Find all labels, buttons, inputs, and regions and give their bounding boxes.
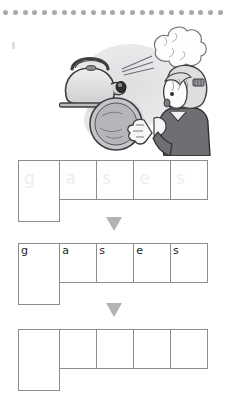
letter-printed: g (21, 244, 28, 257)
letter-box[interactable]: s (96, 243, 134, 283)
letter-printed: s (99, 244, 105, 257)
kettle-steam-child-illustration (48, 24, 226, 156)
rule-dot (159, 10, 164, 15)
rule-dot (179, 10, 184, 15)
letter-box[interactable]: g (18, 243, 60, 305)
letter-ghost: s (102, 170, 111, 187)
letter-box[interactable]: s (170, 160, 208, 200)
rule-dot (32, 10, 37, 15)
rule-dot (62, 10, 67, 15)
word-row-blank (18, 329, 208, 373)
rule-dot (81, 10, 86, 15)
rule-dot (42, 10, 47, 15)
letter-box[interactable] (170, 329, 208, 369)
rule-dot (169, 10, 174, 15)
rule-dot (52, 10, 57, 15)
letter-ghost: e (139, 170, 149, 187)
word-row-traced: g a s e s (18, 160, 208, 204)
letter-box-group (18, 329, 208, 369)
letter-printed: s (173, 244, 179, 257)
letter-ghost: a (65, 170, 75, 187)
rule-dot (110, 10, 115, 15)
decorative-dotted-rule (0, 7, 226, 17)
rule-dot (120, 10, 125, 15)
word-row-model: g a s e s (18, 243, 208, 287)
letter-box-group: g a s e s (18, 243, 208, 283)
letter-box[interactable] (96, 329, 134, 369)
stray-pencil-mark (12, 42, 15, 49)
rule-dot (71, 10, 76, 15)
down-arrow-icon (105, 302, 123, 318)
rule-dot (101, 10, 106, 15)
letter-printed: e (136, 244, 143, 257)
letter-box[interactable]: e (133, 160, 171, 200)
letter-box[interactable]: s (96, 160, 134, 200)
letter-printed: a (62, 244, 69, 257)
letter-box-group: g a s e s (18, 160, 208, 200)
letter-ghost: s (176, 170, 185, 187)
rule-dot (130, 10, 135, 15)
letter-box[interactable]: a (59, 160, 97, 200)
letter-box[interactable] (59, 329, 97, 369)
letter-box[interactable]: g (18, 160, 60, 222)
rule-dot (140, 10, 145, 15)
rule-dot (218, 10, 223, 15)
rule-dot (91, 10, 96, 15)
letter-box[interactable]: s (170, 243, 208, 283)
down-arrow-icon (105, 216, 123, 232)
rule-dot (189, 10, 194, 15)
rule-dot (3, 10, 8, 15)
letter-box[interactable] (18, 329, 60, 391)
rule-dot (13, 10, 18, 15)
letter-box[interactable] (133, 329, 171, 369)
rule-dot (208, 10, 213, 15)
letter-box[interactable]: a (59, 243, 97, 283)
letter-box[interactable]: e (133, 243, 171, 283)
letter-ghost: g (24, 170, 35, 187)
rule-dot (198, 10, 203, 15)
rule-dot (23, 10, 28, 15)
rule-dot (149, 10, 154, 15)
